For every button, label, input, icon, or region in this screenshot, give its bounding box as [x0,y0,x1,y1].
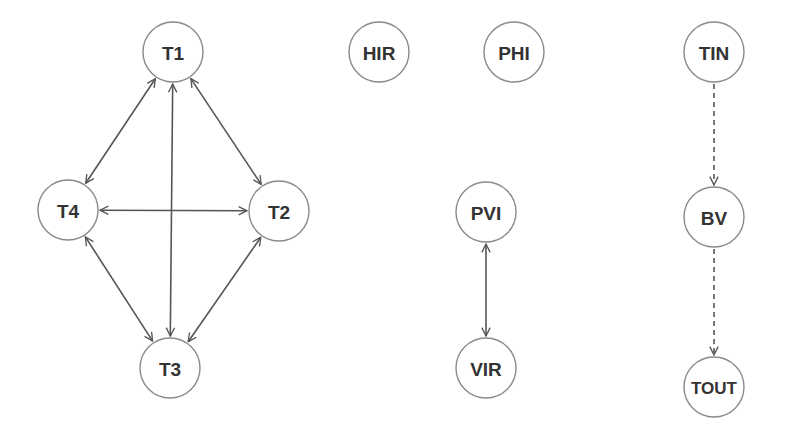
node-bv: BV [684,187,744,247]
node-vir: VIR [456,338,516,398]
node-hir: HIR [349,22,409,82]
node-label: PHI [498,43,530,64]
node-label: TOUT [691,379,738,398]
node-t1: T1 [143,22,203,82]
edge-t4-t2 [100,210,247,211]
edge-t1-t4 [86,79,156,184]
node-label: TIN [699,43,730,64]
edge-t4-t3 [85,237,152,341]
node-graph-diagram: T1 T2 T3 T4 HIR PHI PVI VIR TIN BV TOUT [0,0,788,441]
node-label: T4 [57,201,80,222]
node-tout: TOUT [684,357,744,417]
edge-t1-t2 [191,79,261,185]
node-label: HIR [363,43,396,64]
node-label: T2 [268,202,290,223]
edge-t2-t3 [188,237,261,341]
node-label: T3 [159,359,181,380]
node-phi: PHI [484,22,544,82]
node-t4: T4 [38,180,98,240]
node-t2: T2 [249,181,309,241]
node-pvi: PVI [456,182,516,242]
node-t3: T3 [140,338,200,398]
edges-layer [85,79,714,355]
node-label: T1 [162,43,185,64]
node-label: VIR [470,359,502,380]
node-label: PVI [471,203,502,224]
node-label: BV [701,208,728,229]
node-tin: TIN [684,22,744,82]
